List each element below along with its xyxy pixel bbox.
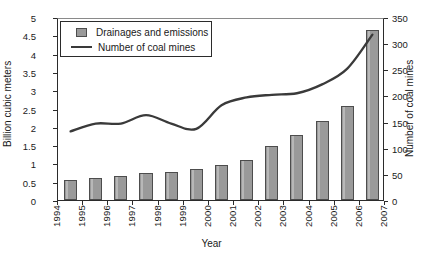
x-axis-tick-mark (233, 201, 234, 205)
x-axis-tick-mark (359, 201, 360, 205)
secondary-y-axis-tick-label: 300 (392, 40, 423, 50)
y-axis-tick-label: 0 (0, 197, 36, 207)
x-axis-tick-label: 2002 (253, 205, 263, 227)
y-axis-tick-mark (53, 146, 57, 147)
x-axis-tick-mark (158, 201, 159, 205)
legend-line-swatch-icon (71, 46, 92, 48)
y-axis-tick-mark (53, 55, 57, 56)
legend-item-drainages: Drainages and emissions (67, 25, 208, 39)
x-axis-tick-mark (208, 201, 209, 205)
y-axis-tick-label: 4.5 (0, 32, 36, 42)
secondary-y-axis-tick-label: 250 (392, 66, 423, 76)
x-axis-tick-mark (183, 201, 184, 205)
secondary-y-axis-tick-label: 150 (392, 118, 423, 128)
x-axis-tick-label: 2004 (304, 205, 314, 227)
y-axis-tick-label: 1.5 (0, 142, 36, 152)
x-axis-tick-mark (132, 201, 133, 205)
y-axis-tick-label: 4 (0, 50, 36, 60)
x-axis-tick-label: 1995 (77, 205, 87, 227)
secondary-y-axis-tick-mark (384, 123, 388, 124)
x-axis-tick-mark (258, 201, 259, 205)
x-axis-tick-mark (82, 201, 83, 205)
y-axis-tick-mark (53, 183, 57, 184)
y-axis-tick-label: 2.5 (0, 105, 36, 115)
x-axis-tick-mark (57, 201, 58, 205)
secondary-y-axis-tick-mark (384, 70, 388, 71)
chart-figure: Billion cubic meters Number of coal mine… (0, 0, 423, 258)
y-axis-tick-mark (53, 110, 57, 111)
y-axis-tick-label: 1 (0, 160, 36, 170)
y-axis-tick-mark (53, 164, 57, 165)
x-axis-tick-label: 1994 (52, 205, 62, 227)
y-axis-tick-label: 0.5 (0, 178, 36, 188)
x-axis-tick-mark (309, 201, 310, 205)
x-axis-tick-label: 2005 (329, 205, 339, 227)
x-axis-tick-label: 1999 (178, 205, 188, 227)
x-axis-tick-label: 1997 (127, 205, 137, 227)
y-axis-tick-label: 5 (0, 14, 36, 24)
x-axis-tick-label: 2003 (278, 205, 288, 227)
secondary-y-axis-tick-mark (384, 149, 388, 150)
secondary-y-axis-tick-mark (384, 44, 388, 45)
x-axis-tick-mark (107, 201, 108, 205)
x-axis-tick-label: 2000 (203, 205, 213, 227)
x-axis-tick-mark (334, 201, 335, 205)
y-axis-tick-mark (53, 18, 57, 19)
secondary-y-axis-tick-label: 100 (392, 144, 423, 154)
secondary-y-axis-tick-label: 0 (392, 197, 423, 207)
secondary-y-axis-tick-label: 200 (392, 92, 423, 102)
x-axis-tick-label: 2001 (228, 205, 238, 227)
legend-label-coal-mines: Number of coal mines (98, 42, 195, 53)
x-axis-tick-mark (283, 201, 284, 205)
y-axis-tick-label: 3 (0, 87, 36, 97)
y-axis-tick-mark (53, 91, 57, 92)
x-axis-title: Year (0, 238, 423, 249)
secondary-y-axis-tick-label: 350 (392, 14, 423, 24)
x-axis-tick-label: 1998 (153, 205, 163, 227)
legend-square-swatch-icon (76, 28, 87, 37)
y-axis-tick-label: 2 (0, 123, 36, 133)
y-axis-tick-label: 3.5 (0, 68, 36, 78)
secondary-y-axis-tick-label: 50 (392, 170, 423, 180)
x-axis-tick-label: 1996 (102, 205, 112, 227)
chart-legend: Drainages and emissions Number of coal m… (60, 21, 212, 57)
x-axis-tick-label: 2006 (354, 205, 364, 227)
y-axis-tick-mark (53, 128, 57, 129)
y-axis-tick-mark (53, 36, 57, 37)
secondary-y-axis-tick-mark (384, 175, 388, 176)
x-axis-tick-label: 2007 (379, 205, 389, 227)
legend-item-coal-mines: Number of coal mines (67, 40, 195, 54)
y-axis-tick-mark (53, 73, 57, 74)
legend-label-drainages: Drainages and emissions (96, 27, 208, 38)
secondary-y-axis-tick-mark (384, 18, 388, 19)
x-axis-tick-mark (384, 201, 385, 205)
secondary-y-axis-tick-mark (384, 96, 388, 97)
